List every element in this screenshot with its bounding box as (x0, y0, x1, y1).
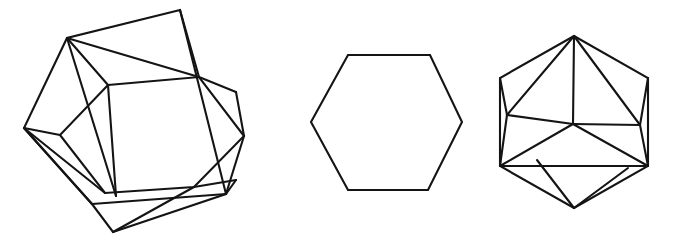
figure-canvas (0, 0, 674, 240)
right-cube-spoke-up (573, 36, 574, 124)
right-crease-8 (573, 124, 640, 125)
